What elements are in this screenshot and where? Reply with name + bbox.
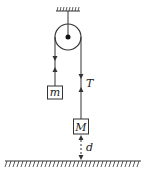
tension-label: T xyxy=(86,77,95,90)
arrow-up-icon xyxy=(53,67,58,72)
arrow-down-icon xyxy=(79,155,84,160)
arrow-up-icon xyxy=(79,135,84,140)
arrow-up-icon xyxy=(79,87,84,92)
right-string: T xyxy=(79,37,96,119)
ceiling-support xyxy=(56,7,80,37)
large-mass-label: M xyxy=(74,121,87,134)
block-large-mass: M xyxy=(74,119,89,134)
small-mass-label: m xyxy=(50,86,60,99)
arrow-down-icon xyxy=(53,56,58,61)
block-small-mass: m xyxy=(48,86,63,99)
distance-indicator: d xyxy=(79,135,94,160)
distance-label: d xyxy=(86,141,93,154)
pulley-axle xyxy=(66,35,71,40)
arrow-down-icon xyxy=(79,74,84,79)
pulley-diagram: m T M d xyxy=(0,0,146,173)
ground-surface xyxy=(5,161,141,167)
